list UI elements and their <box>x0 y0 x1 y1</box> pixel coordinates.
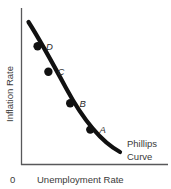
curve-annotation-line1: Phillips <box>127 138 157 149</box>
data-point-label-b: B <box>80 98 87 109</box>
phillips-curve-line <box>29 22 121 152</box>
phillips-curve-figure: D C B A Phillips Curve Inflation Rate Un… <box>0 0 171 189</box>
x-axis-title: Unemployment Rate <box>37 174 124 185</box>
data-point-d <box>33 42 41 50</box>
y-axis-title: Inflation Rate <box>4 66 15 122</box>
data-point-b <box>66 99 74 107</box>
data-point-c <box>44 68 52 76</box>
data-point-label-d: D <box>46 41 53 52</box>
origin-label: 0 <box>10 174 15 185</box>
data-point-label-c: C <box>58 66 65 77</box>
data-point-label-a: A <box>99 124 106 135</box>
data-point-a <box>86 125 94 133</box>
curve-annotation-line2: Curve <box>127 151 152 162</box>
phillips-curve-chart: D C B A Phillips Curve Inflation Rate Un… <box>0 0 171 189</box>
